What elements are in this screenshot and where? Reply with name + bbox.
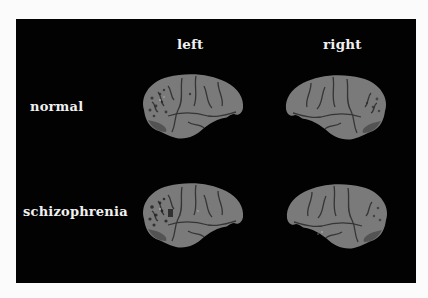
brain-schizophrenia-left bbox=[138, 181, 246, 251]
row-label-schizophrenia: schizophrenia bbox=[23, 204, 128, 219]
brain-normal-left bbox=[138, 72, 246, 142]
column-label-left: left bbox=[177, 36, 204, 52]
figure-panel: left right normal schizophrenia bbox=[16, 19, 416, 283]
column-label-right: right bbox=[323, 36, 362, 52]
row-label-normal: normal bbox=[30, 99, 83, 114]
brain-normal-right bbox=[285, 73, 391, 143]
brain-schizophrenia-right bbox=[286, 182, 392, 252]
